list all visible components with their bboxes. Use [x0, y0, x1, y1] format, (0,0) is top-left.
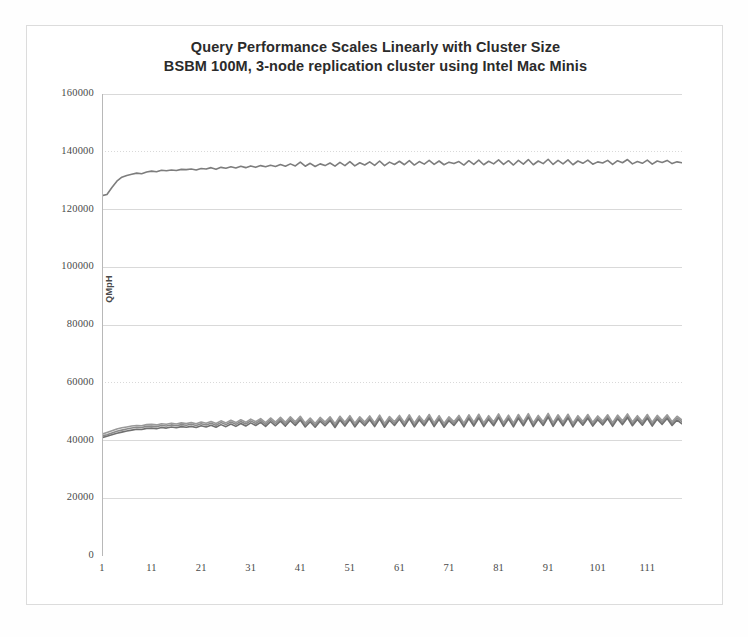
x-tick-label: 41	[295, 562, 306, 573]
chart-title-block: Query Performance Scales Linearly with C…	[27, 38, 724, 76]
chart-subtitle: BSBM 100M, 3-node replication cluster us…	[27, 57, 724, 76]
y-tick-label: 140000	[61, 145, 94, 156]
y-tick-label: 160000	[61, 87, 94, 98]
x-tick-label: 61	[394, 562, 405, 573]
y-tick-label: 40000	[67, 434, 94, 445]
plot-svg	[102, 94, 682, 556]
plot-area: 1600001400001200001000008000060000400002…	[102, 94, 682, 556]
x-tick-label: 101	[590, 562, 606, 573]
x-tick-label: 1	[99, 562, 104, 573]
y-tick-label: 80000	[67, 318, 94, 329]
data-series-group	[102, 159, 682, 437]
y-tick-label: 120000	[61, 203, 94, 214]
x-axis-tick-labels: 1112131415161718191101111	[102, 562, 682, 582]
x-tick-label: 31	[245, 562, 256, 573]
series-line-0	[102, 159, 682, 195]
y-tick-label: 20000	[67, 491, 94, 502]
chart-container: Query Performance Scales Linearly with C…	[0, 0, 748, 637]
x-tick-label: 111	[640, 562, 656, 573]
y-tick-label: 100000	[61, 260, 94, 271]
y-tick-label: 60000	[67, 376, 94, 387]
x-tick-label: 71	[444, 562, 455, 573]
x-tick-label: 51	[344, 562, 355, 573]
y-axis-title: QMpH	[104, 244, 114, 334]
y-tick-label: 0	[89, 549, 94, 560]
y-axis-tick-labels: 1600001400001200001000008000060000400002…	[40, 94, 94, 556]
x-tick-label: 81	[493, 562, 504, 573]
page-title: Query Performance Scales Linearly with C…	[27, 38, 724, 57]
x-tick-label: 91	[543, 562, 554, 573]
chart-frame: Query Performance Scales Linearly with C…	[26, 25, 723, 605]
x-tick-label: 21	[196, 562, 207, 573]
x-tick-label: 11	[146, 562, 157, 573]
